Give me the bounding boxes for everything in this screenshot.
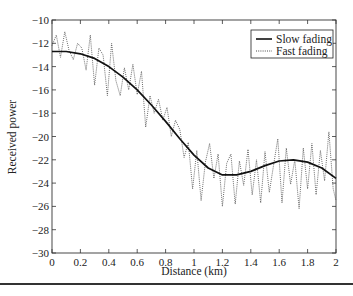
- caption-divider: [0, 283, 353, 285]
- y-tick-label: −18: [32, 107, 50, 119]
- x-tick-label: 1.8: [301, 256, 315, 268]
- y-tick-label: −10: [32, 14, 50, 26]
- x-tick-label: 1.4: [244, 256, 258, 268]
- x-tick-label: 1.6: [272, 256, 286, 268]
- x-tick-label: 0.6: [130, 256, 144, 268]
- x-tick-label: 0: [49, 256, 55, 268]
- fading-chart: 00.20.40.60.811.21.41.61.82 −10−12−14−16…: [0, 0, 353, 296]
- x-tick-label: 2: [333, 256, 339, 268]
- y-tick-label: −12: [32, 37, 49, 49]
- y-tick-label: −22: [32, 154, 49, 166]
- y-tick-label: −20: [32, 131, 50, 143]
- y-tick-label: −14: [32, 61, 50, 73]
- legend-item-fast-fading: Fast fading: [276, 45, 328, 58]
- legend: Slow fading Fast fading: [251, 30, 333, 58]
- slow-fading-line: [52, 52, 336, 179]
- y-tick-label: −28: [32, 224, 50, 236]
- y-tick-label: −26: [32, 200, 50, 212]
- y-tick-label: −30: [32, 247, 50, 259]
- y-tick-label: −24: [32, 177, 50, 189]
- x-tick-label: 0.2: [74, 256, 88, 268]
- y-tick-label: −16: [32, 84, 50, 96]
- x-tick-label: 0.4: [102, 256, 116, 268]
- x-axis-title: Distance (km): [161, 265, 227, 278]
- y-axis-title: Received power: [6, 100, 19, 175]
